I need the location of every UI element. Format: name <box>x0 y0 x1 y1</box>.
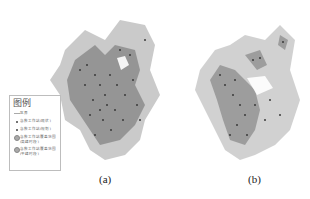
caption-a: (a) <box>99 173 111 185</box>
coverage-map-a <box>45 10 165 170</box>
coverage-map-b <box>185 10 305 170</box>
legend-item-coverage-peak: 急救工作站覆盖范围 (高峰时段) <box>13 135 57 144</box>
map-panel-b <box>185 10 305 170</box>
boundary-line-icon <box>13 111 20 116</box>
station-dot-icon <box>13 119 20 124</box>
legend-item-station-existing: 急救工作站(现状) <box>13 119 57 124</box>
coverage-area-icon <box>13 135 20 140</box>
station-dot-icon <box>13 127 20 132</box>
coverage-area-icon <box>13 147 20 152</box>
legend-item-station-planned: 急救工作站(规划) <box>13 127 57 132</box>
legend-item-district-boundary: 区界 <box>13 111 57 116</box>
legend-title: 图例 <box>13 98 57 109</box>
legend-item-coverage-offpeak: 急救工作站覆盖范围 (平峰时段) <box>13 147 57 156</box>
map-legend: 图例 区界 急救工作站(现状) 急救工作站(规划) 急救工作站覆盖范围 (高峰时… <box>9 95 61 171</box>
caption-b: (b) <box>248 173 261 185</box>
map-panel-a <box>45 10 165 170</box>
